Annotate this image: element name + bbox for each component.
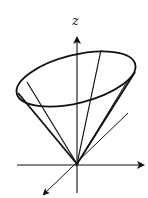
cone-generator-right (77, 80, 128, 164)
cone-apex (75, 162, 78, 165)
cone-generator-top (77, 50, 101, 164)
cone-diagram: z (0, 0, 148, 198)
y-axis (44, 113, 128, 194)
z-axis-label: z (72, 14, 79, 27)
cone-generator-left (27, 82, 77, 164)
cone-rim-ellipse (11, 41, 141, 117)
cone-figure (0, 0, 148, 198)
